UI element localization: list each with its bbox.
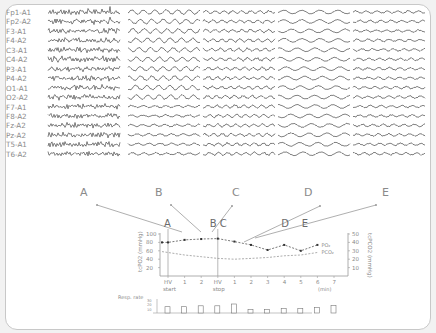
y-axis-label-right: tcPCO2 (mmHg) xyxy=(366,233,373,278)
panel-label-A: A xyxy=(80,186,88,199)
arrow-head xyxy=(375,204,377,206)
eeg-trace xyxy=(278,38,350,42)
eeg-trace xyxy=(278,48,350,52)
eeg-trace xyxy=(128,9,200,14)
po2-point xyxy=(233,241,235,243)
resp-tick: 20 xyxy=(147,303,152,307)
po2-point xyxy=(283,244,285,246)
eeg-trace xyxy=(48,7,120,15)
eeg-trace xyxy=(48,132,120,138)
eeg-trace xyxy=(353,39,425,42)
eeg-trace xyxy=(128,114,200,117)
eeg-trace xyxy=(203,86,275,90)
x-tick-label: 1 xyxy=(183,279,187,285)
eeg-trace xyxy=(203,20,275,24)
x-tick-label: 2 xyxy=(200,279,204,285)
eeg-trace xyxy=(278,123,350,127)
x-tick-label: HV xyxy=(214,279,222,285)
eeg-trace xyxy=(48,84,120,90)
eeg-trace xyxy=(128,57,200,62)
resp-bar xyxy=(298,309,303,314)
eeg-trace xyxy=(128,38,200,43)
eeg-trace xyxy=(48,66,120,72)
pointer-arrow xyxy=(171,205,201,232)
eeg-trace xyxy=(48,122,120,128)
arrow-head xyxy=(170,204,172,206)
eeg-trace xyxy=(353,48,425,52)
x-tick-label: 5 xyxy=(299,279,303,285)
eeg-trace xyxy=(128,47,200,52)
po2-point xyxy=(184,239,186,241)
resp-bar xyxy=(248,309,253,313)
eeg-trace xyxy=(353,86,425,89)
y-tick-left: 60 xyxy=(146,248,153,254)
eeg-trace xyxy=(278,86,350,90)
eeg-trace xyxy=(203,10,275,14)
eeg-trace xyxy=(203,152,275,156)
chart-event-C: C xyxy=(220,218,227,229)
eeg-trace xyxy=(278,133,350,137)
eeg-trace xyxy=(128,85,200,90)
eeg-trace xyxy=(48,17,120,25)
hv-stop-label: stop xyxy=(213,286,225,293)
x-tick-label: 7 xyxy=(333,279,337,285)
po2-point xyxy=(161,241,163,243)
arrow-head xyxy=(96,204,98,206)
eeg-trace xyxy=(48,28,120,33)
eeg-trace xyxy=(48,47,120,53)
panel-label-E: E xyxy=(382,186,389,199)
y-tick-left: 100 xyxy=(146,231,157,237)
resp-rate-label: Resp. rate xyxy=(118,294,143,301)
eeg-trace xyxy=(128,143,200,146)
resp-bar xyxy=(314,308,319,313)
po2-point xyxy=(250,244,252,246)
eeg-trace xyxy=(203,123,275,127)
eeg-trace xyxy=(353,152,425,156)
eeg-trace xyxy=(48,56,120,63)
po2-point xyxy=(267,249,269,251)
eeg-trace xyxy=(278,29,350,33)
eeg-trace xyxy=(203,29,275,33)
eeg-trace xyxy=(128,152,200,155)
eeg-trace xyxy=(128,76,200,81)
eeg-trace xyxy=(128,124,200,127)
y-tick-right: 20 xyxy=(352,256,359,262)
y-axis-label-left: tcPO2 (mmHg) xyxy=(137,231,144,272)
eeg-trace xyxy=(203,57,275,61)
y-tick-right: 50 xyxy=(352,231,359,237)
eeg-trace xyxy=(203,67,275,71)
eeg-trace xyxy=(278,19,350,23)
po2-point xyxy=(316,244,318,246)
eeg-trace xyxy=(278,76,350,80)
x-tick-label: 2 xyxy=(250,279,254,285)
x-tick-label: 4 xyxy=(283,279,287,285)
eeg-trace xyxy=(353,96,425,99)
eeg-trace xyxy=(353,143,425,146)
eeg-trace xyxy=(353,29,425,32)
eeg-trace xyxy=(353,10,425,13)
eeg-panel-C xyxy=(203,10,275,156)
eeg-trace xyxy=(278,142,350,146)
eeg-trace xyxy=(353,114,425,117)
eeg-trace xyxy=(48,38,120,43)
eeg-trace xyxy=(48,142,120,147)
eeg-trace xyxy=(48,76,120,82)
eeg-trace xyxy=(278,10,350,14)
eeg-trace xyxy=(353,105,425,108)
eeg-trace xyxy=(353,133,425,136)
eeg-trace xyxy=(128,66,200,71)
eeg-panel-E xyxy=(353,10,425,155)
resp-bar xyxy=(281,309,286,314)
resp-bar xyxy=(265,309,270,313)
po2-point xyxy=(200,238,202,240)
y-tick-right: 10 xyxy=(352,265,359,271)
resp-tick: 30 xyxy=(147,299,152,303)
x-axis-unit: (min) xyxy=(318,286,331,292)
eeg-panel-B xyxy=(128,9,200,155)
po2-point xyxy=(300,250,302,252)
panel-label-C: C xyxy=(232,186,240,199)
eeg-trace xyxy=(278,114,350,118)
panel-label-D: D xyxy=(304,186,312,199)
eeg-trace xyxy=(278,152,350,156)
eeg-trace xyxy=(353,67,425,71)
